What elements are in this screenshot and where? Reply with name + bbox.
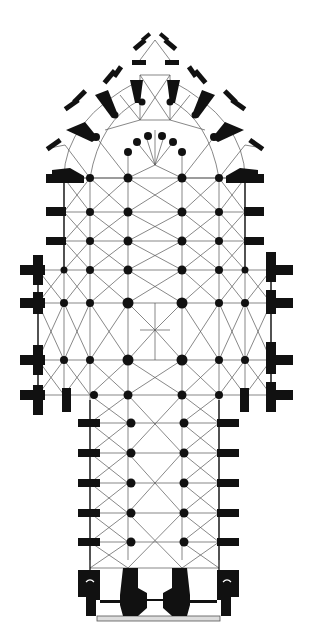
cathedral-floor-plan — [0, 0, 313, 640]
walls — [38, 178, 271, 621]
vault-lines — [38, 40, 271, 568]
west-facade-towers — [78, 568, 239, 616]
stair-markers — [86, 580, 231, 582]
buttresses — [20, 32, 293, 546]
